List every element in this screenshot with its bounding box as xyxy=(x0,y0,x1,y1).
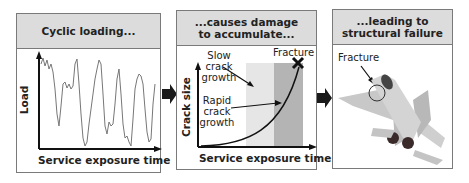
y-axis-label: Load xyxy=(18,85,30,115)
slow-line3: growth xyxy=(199,72,239,83)
x-axis-label: Service exposure time xyxy=(38,154,170,166)
fighter-jet-illustration xyxy=(333,10,454,170)
rapid-crack-growth-label: Rapid crack growth xyxy=(197,95,237,128)
fracture-label: Fracture xyxy=(273,47,314,58)
panel-damage-accumulation: ...causes damage to accumulate... Slow c… xyxy=(176,10,317,170)
arrow-right-icon xyxy=(317,88,333,108)
panel-structural-failure: ...leading to structural failure Fractur… xyxy=(332,9,453,169)
y-axis-label: Crack size xyxy=(180,77,192,137)
panel-cyclic-loading: Cyclic loading... Load Service exposure … xyxy=(16,13,161,173)
load-chart xyxy=(17,14,162,174)
rapid-line1: Rapid xyxy=(197,95,237,106)
rapid-line2: crack xyxy=(197,106,237,117)
rapid-line3: growth xyxy=(197,117,237,128)
crack-growth-chart xyxy=(177,11,318,171)
slow-line1: Slow xyxy=(199,50,239,61)
rapid-growth-band xyxy=(274,63,303,147)
x-axis-label: Service exposure time xyxy=(199,152,331,164)
slow-crack-growth-label: Slow crack growth xyxy=(199,50,239,83)
slow-line2: crack xyxy=(199,61,239,72)
